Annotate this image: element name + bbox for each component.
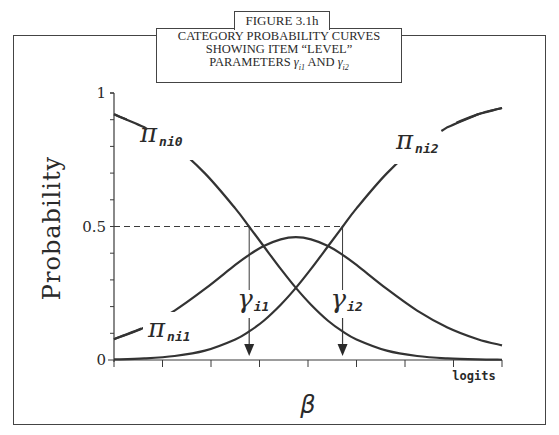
threshold-label: γi1 — [237, 284, 269, 314]
plot-area: 00.51logitsβγi1γi2 πni0πni1πni2 — [0, 0, 559, 435]
y-tick-label: 1 — [96, 84, 106, 102]
x-unit-label: logits — [452, 369, 495, 383]
y-tick-label: 0 — [96, 351, 106, 369]
threshold-arrow-icon — [244, 344, 254, 356]
threshold-label: γi2 — [331, 284, 363, 314]
threshold-arrow-icon — [338, 344, 348, 356]
x-axis-label: β — [299, 391, 315, 419]
y-tick-label: 0.5 — [82, 218, 106, 236]
